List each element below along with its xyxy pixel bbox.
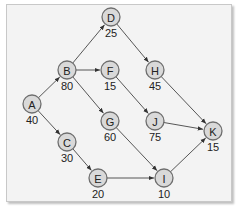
node-j: J75 <box>146 112 164 143</box>
node-g: G60 <box>101 112 119 143</box>
node-f: F15 <box>101 61 119 92</box>
node-value: 10 <box>158 188 170 200</box>
node-d: D25 <box>102 8 120 39</box>
network-diagram: A40B80C30D25E20F15G60H45I10J75K15 <box>0 0 240 214</box>
node-value: 75 <box>149 131 161 143</box>
nodes-layer: A40B80C30D25E20F15G60H45I10J75K15 <box>23 8 222 200</box>
node-value: 20 <box>92 188 104 200</box>
node-value: 60 <box>104 131 116 143</box>
node-label: G <box>106 116 115 128</box>
node-label: E <box>94 173 101 185</box>
node-label: D <box>107 12 115 24</box>
node-label: K <box>209 126 217 138</box>
node-label: F <box>107 65 114 77</box>
node-label: B <box>63 65 70 77</box>
node-label: C <box>63 137 71 149</box>
edge-a-b <box>38 77 59 98</box>
edge-j-k <box>164 123 203 130</box>
node-label: H <box>151 65 159 77</box>
node-i: I10 <box>155 169 173 200</box>
node-value: 15 <box>104 80 116 92</box>
edge-h-k <box>161 77 206 124</box>
node-k: K15 <box>204 122 222 153</box>
edge-i-k <box>170 138 205 172</box>
edge-d-h <box>117 24 149 62</box>
edge-b-d <box>73 25 105 63</box>
node-label: J <box>152 116 158 128</box>
node-label: I <box>162 173 165 185</box>
node-h: H45 <box>146 61 164 92</box>
node-value: 15 <box>207 141 219 153</box>
edge-f-j <box>116 77 148 114</box>
edge-b-g <box>73 77 104 113</box>
node-value: 30 <box>61 152 73 164</box>
node-value: 40 <box>26 114 38 126</box>
edge-c-e <box>73 149 92 171</box>
node-value: 45 <box>149 80 161 92</box>
node-value: 80 <box>61 80 73 92</box>
node-c: C30 <box>58 133 76 164</box>
node-label: A <box>28 99 36 111</box>
node-b: B80 <box>58 61 76 92</box>
edge-a-c <box>38 111 60 135</box>
node-a: A40 <box>23 95 41 126</box>
node-value: 25 <box>105 27 117 39</box>
node-e: E20 <box>89 169 107 200</box>
